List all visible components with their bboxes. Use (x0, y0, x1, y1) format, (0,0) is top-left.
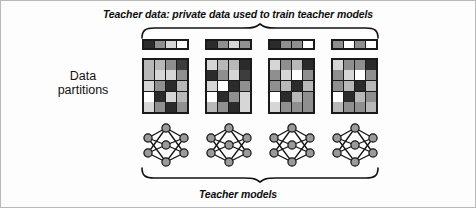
data-cell (144, 81, 154, 91)
data-cell (366, 81, 376, 91)
data-cell (344, 60, 354, 70)
label-cell (355, 41, 366, 49)
data-cell (303, 92, 313, 102)
data-cell (218, 102, 228, 112)
data-cell (155, 92, 165, 102)
teacher-model-3 (267, 123, 317, 167)
data-cell (281, 92, 291, 102)
data-cell (166, 102, 176, 112)
partition-4 (329, 39, 380, 167)
data-cell (229, 81, 239, 91)
data-cell (155, 81, 165, 91)
data-cell (240, 60, 250, 70)
data-cell (292, 102, 302, 112)
data-cell (155, 102, 165, 112)
data-cell (303, 102, 313, 112)
data-cell (333, 92, 343, 102)
label-cell (281, 41, 292, 49)
data-grid (205, 58, 252, 114)
data-cell (355, 92, 365, 102)
partition-1 (140, 39, 191, 167)
data-cell (303, 60, 313, 70)
data-cell (207, 81, 217, 91)
partition-3 (266, 39, 317, 167)
neural-network-graphic (141, 123, 191, 167)
neural-network-graphic (267, 123, 317, 167)
data-cell (144, 102, 154, 112)
data-cell (281, 102, 291, 112)
partition-columns (140, 39, 380, 167)
data-cell (333, 70, 343, 80)
data-cell (144, 70, 154, 80)
data-partitions-label-line2: partitions (35, 83, 131, 97)
data-cell (229, 60, 239, 70)
data-cell (240, 102, 250, 112)
data-cell (281, 81, 291, 91)
data-cell (270, 70, 280, 80)
label-cell (344, 41, 355, 49)
data-cell (270, 92, 280, 102)
data-cell (229, 70, 239, 80)
data-cell (218, 70, 228, 80)
data-cell (177, 102, 187, 112)
label-strip (331, 39, 378, 50)
bottom-brace (140, 167, 380, 183)
data-cell (144, 92, 154, 102)
data-partitions-label-line1: Data (35, 69, 131, 83)
data-cell (155, 70, 165, 80)
data-cell (292, 70, 302, 80)
data-cell (166, 70, 176, 80)
figure-canvas: Teacher data: private data used to train… (0, 0, 476, 208)
data-cell (240, 92, 250, 102)
data-cell (292, 81, 302, 91)
data-cell (355, 81, 365, 91)
label-strip (205, 39, 252, 50)
data-cell (355, 70, 365, 80)
data-cell (344, 102, 354, 112)
data-cell (292, 92, 302, 102)
label-cell (240, 41, 251, 49)
data-cell (333, 102, 343, 112)
data-cell (366, 92, 376, 102)
data-cell (218, 60, 228, 70)
neural-network-graphic (204, 123, 254, 167)
data-cell (303, 70, 313, 80)
data-cell (355, 60, 365, 70)
label-cell (229, 41, 240, 49)
label-cell (366, 41, 377, 49)
data-cell (166, 81, 176, 91)
label-cell (333, 41, 344, 49)
data-cell (229, 102, 239, 112)
label-cell (207, 41, 218, 49)
data-grid (331, 58, 378, 114)
data-cell (177, 92, 187, 102)
data-cell (177, 81, 187, 91)
data-cell (240, 81, 250, 91)
data-cell (366, 102, 376, 112)
data-cell (166, 60, 176, 70)
label-strip (142, 39, 189, 50)
label-cell (166, 41, 177, 49)
data-cell (177, 70, 187, 80)
partition-2 (203, 39, 254, 167)
data-cell (333, 60, 343, 70)
label-cell (270, 41, 281, 49)
data-cell (344, 70, 354, 80)
data-cell (240, 70, 250, 80)
data-partitions-label: Data partitions (35, 69, 131, 97)
data-cell (218, 81, 228, 91)
data-cell (270, 102, 280, 112)
top-brace (140, 23, 380, 39)
data-cell (366, 70, 376, 80)
data-cell (344, 81, 354, 91)
teacher-model-1 (141, 123, 191, 167)
data-cell (155, 60, 165, 70)
label-strip (268, 39, 315, 50)
teacher-model-4 (330, 123, 380, 167)
data-grid (142, 58, 189, 114)
data-cell (207, 70, 217, 80)
data-cell (355, 102, 365, 112)
data-cell (207, 92, 217, 102)
data-grid (268, 58, 315, 114)
label-cell (155, 41, 166, 49)
